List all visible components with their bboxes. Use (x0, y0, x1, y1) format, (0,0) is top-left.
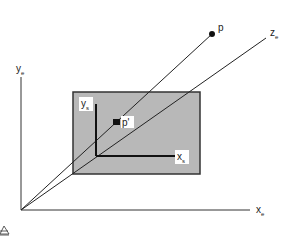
point-p-prime (113, 119, 120, 125)
x-e-label: xe (256, 204, 265, 217)
z-e-axis (21, 38, 266, 210)
point-p (209, 31, 215, 37)
point-p-label: p (218, 22, 224, 33)
eye-icon (0, 226, 9, 235)
p-prime-label: p' (122, 117, 130, 128)
z-e-label: ze (270, 27, 279, 40)
perspective-diagram: p ze ye xe ys xs p' (0, 0, 295, 246)
y-e-label: ye (16, 63, 25, 76)
